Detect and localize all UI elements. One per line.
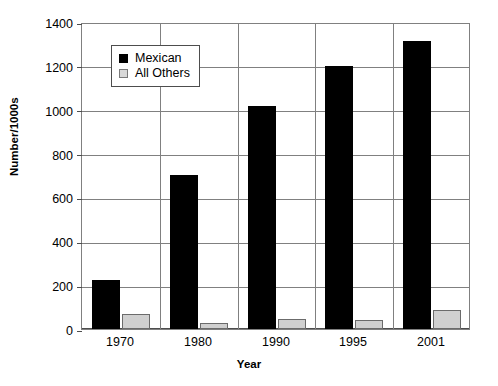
bar-1970-all-others: [122, 314, 150, 329]
bar-1995-mexican: [325, 66, 353, 329]
category-separator: [315, 24, 316, 329]
y-axis-tick-label: 1200: [45, 62, 73, 75]
y-axis-tick: [77, 67, 82, 68]
y-axis-title: Number/1000s: [8, 97, 20, 176]
y-axis-tick-label: 400: [52, 237, 73, 250]
x-axis-tick-label: 1980: [184, 336, 212, 349]
y-axis-tick: [77, 24, 82, 25]
legend-label-mexican: Mexican: [135, 52, 182, 65]
black-square-icon: [119, 54, 128, 63]
x-axis-title: Year: [0, 358, 498, 370]
bar-1970-mexican: [92, 280, 120, 329]
y-axis-tick-label: 800: [52, 149, 73, 162]
y-axis-tick-label: 200: [52, 281, 73, 294]
bar-chart: Number/1000s 0200400600800100012001400 Y…: [0, 0, 498, 386]
bar-1990-all-others: [278, 319, 306, 329]
chart-legend: Mexican All Others: [111, 45, 200, 87]
y-axis-tick-label: 1000: [45, 105, 73, 118]
legend-label-all-others: All Others: [135, 67, 190, 80]
y-axis-tick: [77, 331, 82, 332]
y-axis-tick: [77, 243, 82, 244]
category-separator: [393, 24, 394, 329]
category-separator: [238, 24, 239, 329]
y-axis-tick: [77, 155, 82, 156]
bar-1990-mexican: [248, 106, 276, 329]
x-axis-tick-label: 1995: [339, 336, 367, 349]
gray-square-icon: [119, 69, 128, 78]
legend-item-mexican: Mexican: [119, 51, 190, 66]
legend-item-all-others: All Others: [119, 66, 190, 81]
x-axis-tick-label: 1970: [106, 336, 134, 349]
y-axis-tick-label: 0: [66, 325, 73, 338]
y-axis-tick: [77, 287, 82, 288]
bar-2001-all-others: [433, 310, 461, 329]
bar-2001-mexican: [403, 41, 431, 329]
x-axis-tick-label: 2001: [417, 336, 445, 349]
y-axis-tick: [77, 111, 82, 112]
y-axis-tick: [77, 199, 82, 200]
y-axis-tick-label: 600: [52, 193, 73, 206]
bar-1995-all-others: [355, 320, 383, 329]
bar-1980-all-others: [200, 323, 228, 329]
y-axis-tick-label: 1400: [45, 18, 73, 31]
x-axis-tick-label: 1990: [262, 336, 290, 349]
bar-1980-mexican: [170, 175, 198, 329]
